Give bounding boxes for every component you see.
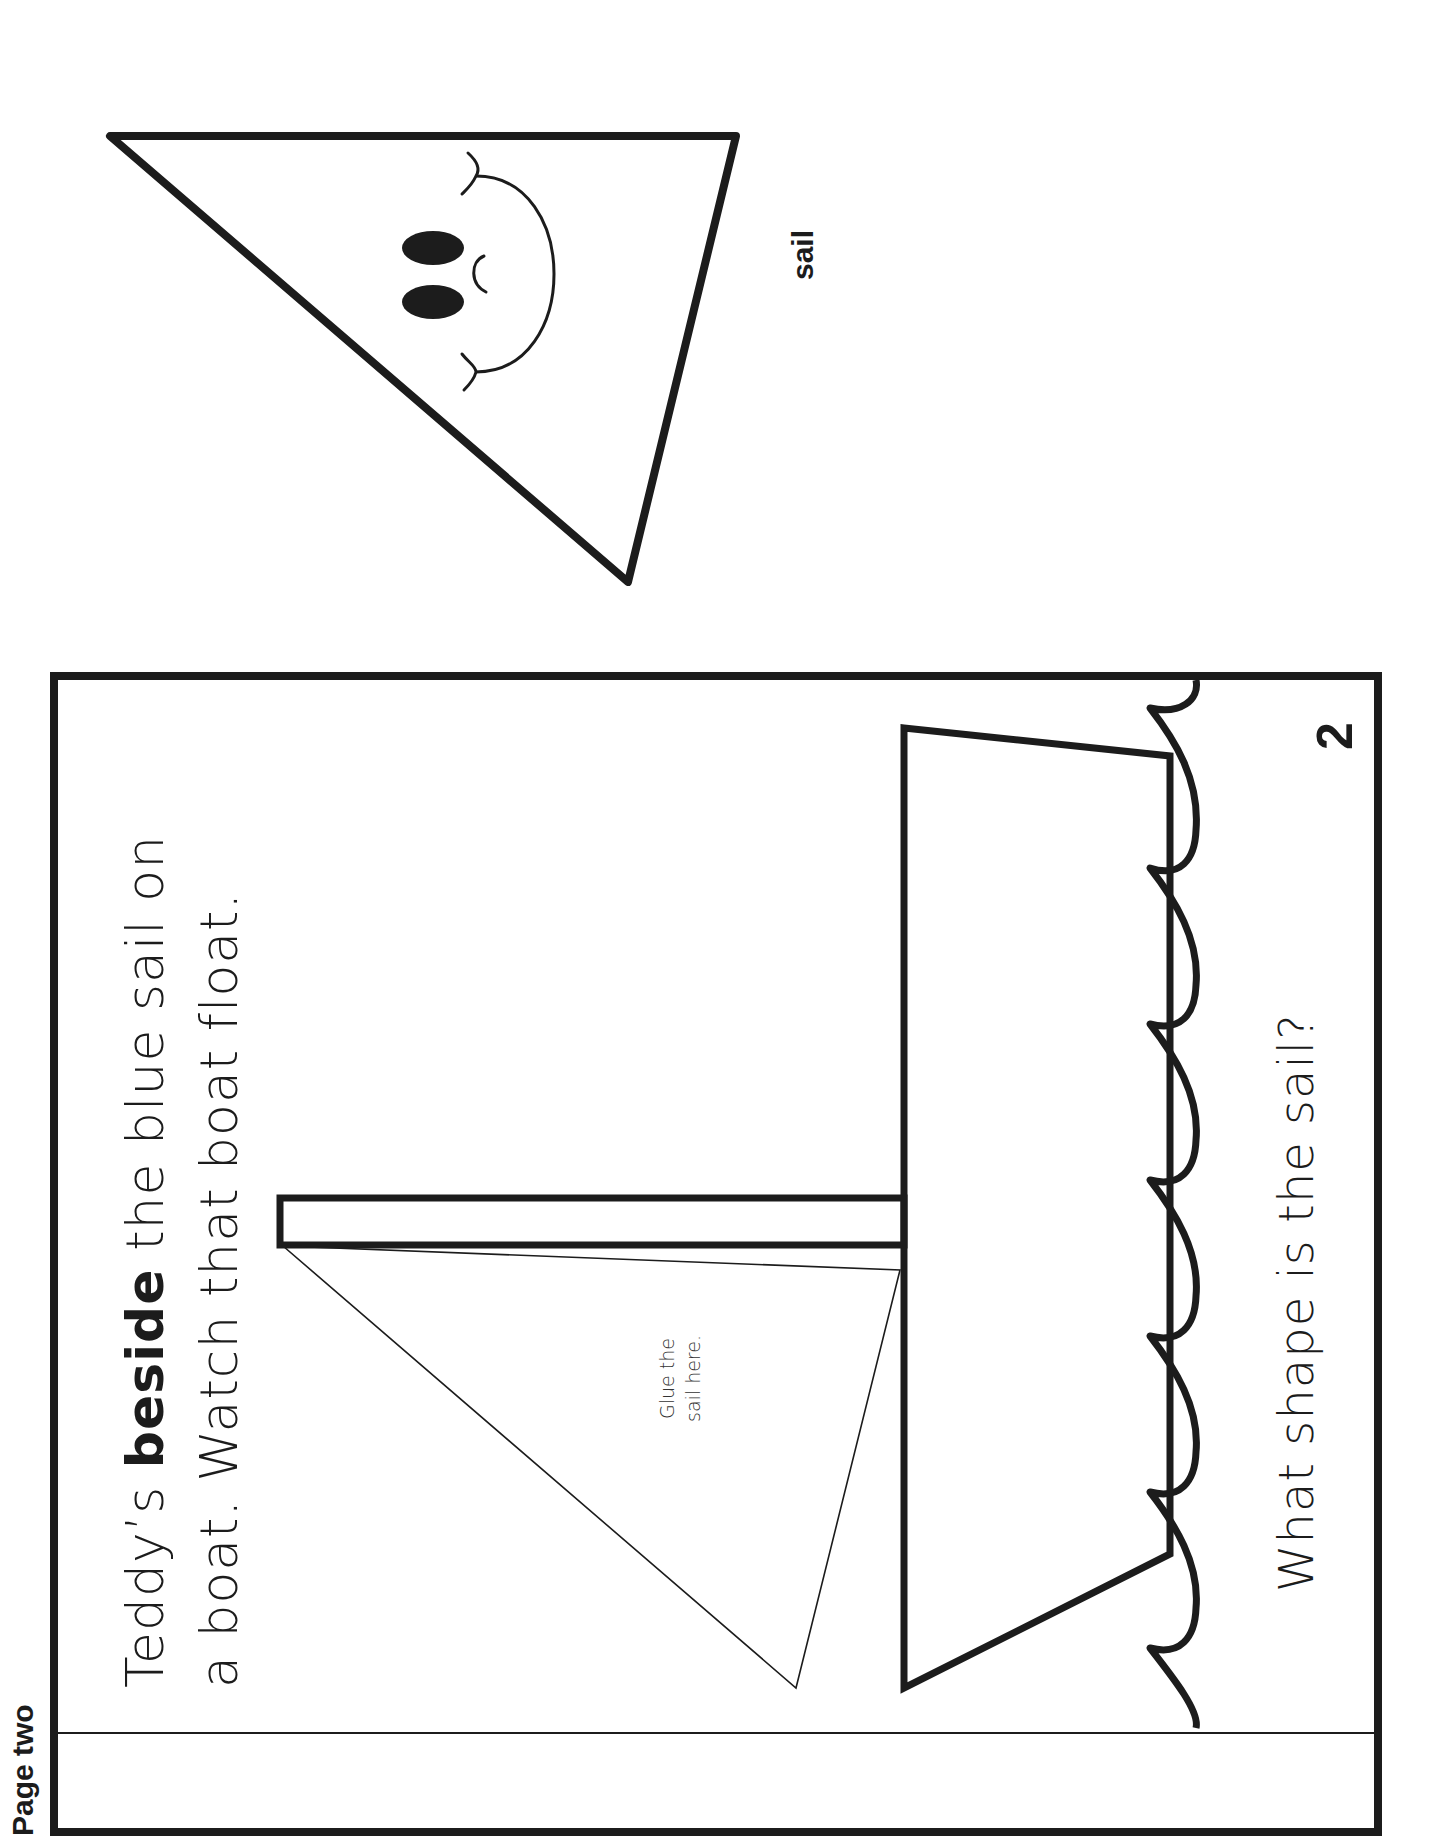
glue-hint: Glue the sail here. bbox=[654, 1335, 706, 1422]
boat-mast bbox=[280, 1198, 904, 1245]
glue-hint-line-1: Glue the bbox=[654, 1335, 680, 1422]
face-eye-icon bbox=[402, 231, 464, 265]
face-nose-icon bbox=[474, 256, 486, 292]
page-label-text: Page two bbox=[6, 1704, 39, 1836]
question-text: What shape is the sail? bbox=[1268, 1013, 1324, 1592]
sail-outline bbox=[283, 1246, 900, 1688]
story-line-2: a boat. Watch that boat float. bbox=[182, 835, 256, 1688]
cutout-sail-triangle bbox=[110, 136, 736, 582]
face-smile-icon bbox=[476, 176, 554, 372]
face-dimple-right bbox=[462, 354, 476, 390]
story-bold-word: beside bbox=[115, 1268, 175, 1468]
glue-hint-line-2: sail here. bbox=[680, 1335, 706, 1422]
page-number: 2 bbox=[1306, 722, 1364, 750]
face-dimple-left bbox=[462, 153, 478, 194]
cutout-label: sail bbox=[786, 230, 820, 280]
boat-hull bbox=[904, 728, 1170, 1688]
page-label: Page two bbox=[6, 1704, 40, 1836]
story-line-1: Teddy’s beside the blue sail on bbox=[108, 835, 182, 1688]
story-text: Teddy’s beside the blue sail on a boat. … bbox=[108, 835, 256, 1688]
face-eye-icon bbox=[402, 285, 464, 319]
